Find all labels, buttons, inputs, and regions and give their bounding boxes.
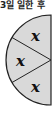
sector-label-top: x	[30, 27, 41, 45]
sector-label-middle: x	[15, 52, 26, 70]
half-circle-shape	[6, 15, 51, 105]
sector-label-bottom: x	[30, 78, 41, 96]
half-circle-diagram: x x x	[0, 0, 54, 113]
